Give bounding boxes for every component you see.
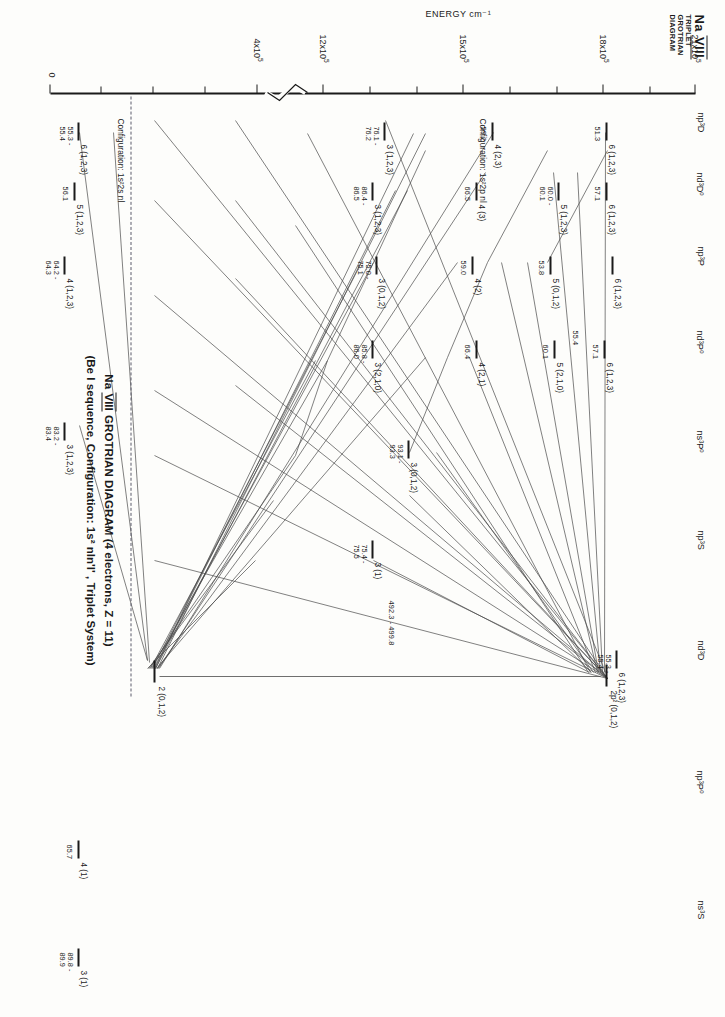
corner-title: Na VIII TRIPLET GROTRIAN DIAGRAM [667, 14, 705, 59]
wavelength-part-a: 76.1 - [371, 126, 380, 145]
level-label: 6 (1,2,3) [604, 362, 613, 393]
level-bar-ground [153, 660, 155, 682]
axis-tick [694, 84, 695, 93]
level-bar [557, 182, 559, 200]
axis-tick [556, 86, 557, 93]
wavelength-label-secondary: 55.4 [570, 330, 579, 345]
level-label: 4 (2,1) [476, 362, 485, 386]
wavelength-part-a: 89.8 - [65, 952, 74, 971]
level-bar [475, 340, 477, 358]
wavelength-label: 93.1 - 93.3 [386, 444, 403, 463]
wavelength-label: 75.4 - 75.5 [350, 544, 367, 563]
wavelength-label: 59.2 [478, 126, 487, 141]
column-label-ns3P0: ns³P⁰ [694, 430, 705, 453]
axis-tick [322, 84, 323, 93]
level-bar [77, 122, 79, 140]
wavelength-label: 53.8 [536, 260, 545, 275]
wavelength-label: 76.1 - 76.2 [362, 126, 379, 145]
wavelength-part-a: 64.2 - [51, 260, 60, 279]
level-bar [383, 122, 385, 140]
axis-tick-label: 4x105 [251, 38, 263, 61]
axis-tick [100, 86, 101, 93]
level-label: 5 (1,2,3) [74, 204, 83, 235]
wavelength-part-a: 75.0 - [363, 260, 372, 279]
axis-tick [649, 86, 650, 93]
wavelength-label: 89.8 - 89.9 [56, 952, 73, 971]
resonance-wavelength-annotation: 492.3 - 499.8 [386, 600, 395, 645]
column-label-ns3S: ns³S [695, 900, 705, 919]
level-label: 3 (2,1,0) [372, 362, 381, 393]
level-label: 6 (1,2,3) [612, 278, 621, 309]
wavelength-part-a: 55.3 - [65, 126, 74, 145]
page-title-line-2: (Be I sequence, Configuration: 1s² nln'l… [81, 180, 99, 840]
level-bar [77, 840, 79, 858]
axis-tick [49, 84, 50, 93]
axis-tick-label: 15x105 [457, 34, 469, 62]
wavelength-label: 55.3 - 55.4 [594, 654, 611, 673]
level-bar [63, 256, 65, 274]
column-label-np3S: np³S [695, 530, 705, 549]
wavelength-label: 59.0 [458, 260, 467, 275]
wavelength-part-a: 86.4 - [359, 186, 368, 205]
level-bar [77, 948, 79, 966]
wavelength-part-a: 93.1 - [395, 444, 404, 463]
corner-element-label: Na VIII [691, 14, 705, 59]
level-label: 3 (1) [78, 970, 87, 987]
configuration-caption-2s: Configuration: 1s²2s nl [115, 118, 125, 202]
level-label: 5 (1,2,3) [558, 204, 567, 235]
axis-tick-label: 0 [46, 72, 56, 77]
level-label: 4 (3) [476, 204, 485, 221]
level-bar [73, 182, 75, 200]
wavelength-part-b: 89.9 [57, 952, 66, 966]
level-bar [611, 256, 613, 274]
wavelength-label: 57.1 [592, 186, 601, 201]
wavelength-label: 86.4 - 86.5 [350, 186, 367, 205]
level-bar [471, 256, 473, 274]
level-label: 5 (0,1,2) [550, 278, 559, 309]
wavelength-label: 83.2 - 83.4 [42, 426, 59, 445]
wavelength-part-b: 75.5 [351, 544, 360, 558]
wavelength-part-b: 93.3 [387, 444, 396, 458]
level-bar [605, 122, 607, 140]
grotrian-diagram-sheet: 21x105 18x105 15x105 12x105 4x105 0 ENER… [0, 0, 725, 1017]
manifold-separator [130, 96, 131, 696]
level-label-ground: 2 (0,1,2) [156, 686, 165, 717]
level-label: 6 (1,2,3) [616, 672, 625, 703]
level-bar [605, 182, 607, 200]
level-label: 3 (1,2,3) [372, 204, 381, 235]
level-bar [553, 340, 555, 358]
wavelength-label: 51.3 [592, 126, 601, 141]
wavelength-label: 66.5 [462, 186, 471, 201]
plot-area: 21x105 18x105 15x105 12x105 4x105 0 ENER… [0, 0, 725, 1017]
column-label-nd3D: nd³D [695, 640, 705, 660]
level-bar [371, 182, 373, 200]
column-label-nd3D0: nd³D⁰ [694, 172, 705, 196]
wavelength-part-b: 64.3 [43, 260, 52, 274]
level-label: 6 (1,2,3) [78, 144, 87, 175]
level-label: 3 (0,1,2) [408, 462, 417, 493]
axis-tick [256, 84, 257, 93]
column-label-np3P: np³P [695, 246, 705, 265]
column-label-np3P0: np³P⁰ [694, 770, 705, 793]
level-label: 6 (1,2,3) [606, 204, 615, 235]
axis-tick-label: 18x105 [597, 34, 609, 62]
wavelength-label: 57.1 [590, 344, 599, 359]
axis-tick [369, 86, 370, 93]
wavelength-part-b: 55.4 [595, 654, 604, 668]
axis-tick-label: 12x105 [317, 34, 329, 62]
level-bar [375, 256, 377, 274]
wavelength-part-a: 60.0 - [545, 186, 554, 205]
wavelength-part-a: 75.4 - [359, 544, 368, 563]
axis-tick [462, 84, 463, 93]
level-label: 3 (1,2,3) [64, 444, 73, 475]
level-label: 3 (1,2,3) [384, 144, 393, 175]
wavelength-part-a: 83.2 - [51, 426, 60, 445]
axis-tick [416, 86, 417, 93]
axis-tick [602, 84, 603, 93]
page-title-line-1: Na VIII GROTRIAN DIAGRAM (4 electrons, Z… [99, 180, 117, 840]
wavelength-label: 60.1 [540, 344, 549, 359]
wavelength-label: 60.0 - 60.1 [536, 186, 553, 205]
corner-sub-3: DIAGRAM [667, 14, 675, 59]
wavelength-part-a: 55.3 - [603, 654, 612, 673]
wavelength-part-b: 83.4 [43, 426, 52, 440]
